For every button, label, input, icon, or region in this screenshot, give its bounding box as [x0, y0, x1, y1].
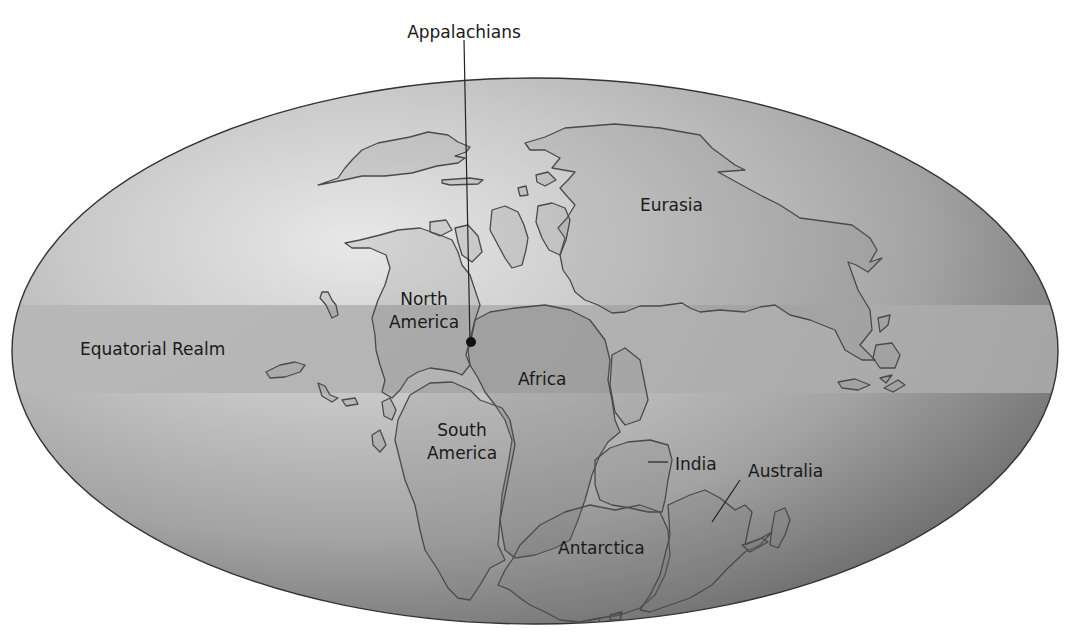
- north-america-label-line1: North: [400, 289, 448, 309]
- australia-label: Australia: [748, 461, 823, 481]
- antarctica-label: Antarctica: [558, 538, 645, 558]
- india-landmass: [595, 440, 672, 512]
- south-america-label-line2: America: [427, 443, 497, 463]
- north-atlantic-island-2: [518, 186, 528, 196]
- map-canvas: Appalachians Equatorial Realm North Amer…: [0, 0, 1069, 640]
- eurasia-label: Eurasia: [640, 195, 703, 215]
- appalachians-marker-icon: [466, 337, 476, 347]
- pangaea-map: Appalachians Equatorial Realm North Amer…: [0, 0, 1069, 640]
- south-america-label-line1: South: [437, 420, 486, 440]
- africa-label: Africa: [518, 369, 567, 389]
- arctic-sliver: [442, 178, 483, 185]
- india-label: India: [675, 454, 717, 474]
- appalachians-label: Appalachians: [407, 22, 521, 42]
- north-america-label-line2: America: [389, 312, 459, 332]
- equatorial-realm-label: Equatorial Realm: [80, 339, 225, 359]
